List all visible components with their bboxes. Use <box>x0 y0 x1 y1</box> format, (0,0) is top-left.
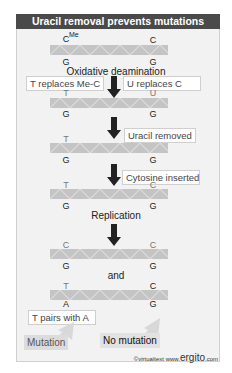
base-bottom-right-3: G <box>147 155 159 165</box>
diagram-title: Uracil removal prevents mutations <box>16 14 220 29</box>
down-arrow-icon <box>107 117 121 139</box>
caption-and: and <box>0 270 232 281</box>
credit-www: www. <box>166 356 180 362</box>
caption-replication: Replication <box>0 210 232 221</box>
methyl-label: Me <box>69 31 79 38</box>
down-arrow-icon <box>107 224 121 246</box>
base-bottom-left-3: G <box>60 155 72 165</box>
base-bottom-right-2: G <box>147 109 159 119</box>
dna-strand-4 <box>50 189 168 199</box>
base-top-right-1: C <box>147 35 159 45</box>
down-arrow-icon <box>107 164 121 186</box>
result-mutation: Mutation <box>24 335 68 350</box>
base-bottom-left-2: G <box>60 109 72 119</box>
base-top-right-2: U <box>147 88 159 98</box>
dna-strand-5 <box>50 249 168 259</box>
base-bottom-left-6: A <box>60 299 72 309</box>
dna-strand-3 <box>50 143 168 153</box>
credit-suffix: .com <box>205 356 218 362</box>
base-bottom-right-6: G <box>147 299 159 309</box>
label-cytosine-inserted: Cytosine inserted <box>122 170 200 185</box>
label-u-replaces-c: U replaces C <box>123 76 201 91</box>
credit-prefix: ©virtualtext <box>134 356 164 362</box>
base-top-left-2: T <box>60 88 72 98</box>
dna-strand-2 <box>50 98 168 108</box>
down-arrow-icon <box>107 76 121 98</box>
credit-line: ©virtualtext www.ergito.com <box>134 352 218 363</box>
result-no-mutation: No mutation <box>100 333 160 348</box>
credit-brand: ergito <box>180 352 205 363</box>
dna-strand-1 <box>50 45 168 55</box>
label-uracil-removed: Uracil removed <box>124 128 196 143</box>
